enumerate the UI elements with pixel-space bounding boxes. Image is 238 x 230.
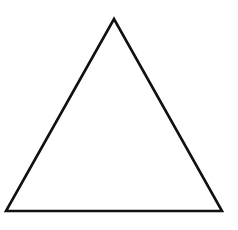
triangle-figure	[0, 0, 238, 230]
diagram-canvas	[0, 0, 238, 230]
